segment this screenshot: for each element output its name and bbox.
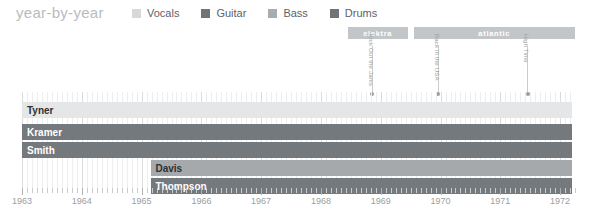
- axis-tick-minor: [520, 188, 521, 193]
- axis-tick-minor: [306, 188, 307, 193]
- axis-tick-minor: [555, 188, 556, 193]
- axis-tick-minor: [460, 188, 461, 193]
- axis-tick-major: [441, 188, 442, 195]
- album-marker-label: High Time: [523, 34, 529, 63]
- axis-tick-minor: [470, 188, 471, 193]
- axis-tick-minor: [485, 188, 486, 193]
- legend-label-bass: Bass: [283, 7, 307, 19]
- axis-tick-minor: [545, 188, 546, 193]
- guitar-swatch-icon: [201, 9, 210, 18]
- legend-item-bass[interactable]: Bass: [268, 7, 307, 19]
- axis-tick-minor: [122, 188, 123, 193]
- axis-tick-minor: [251, 188, 252, 193]
- axis-tick-minor: [361, 188, 362, 193]
- axis-tick-minor: [256, 188, 257, 193]
- axis-tick-minor: [515, 188, 516, 193]
- axis-tick-minor: [97, 188, 98, 193]
- legend-item-vocals[interactable]: Vocals: [132, 7, 179, 19]
- axis-tick-minor: [291, 188, 292, 193]
- album-marker-label: Back in the USA: [434, 34, 440, 81]
- axis-tick-minor: [570, 188, 571, 193]
- axis-tick-minor: [455, 188, 456, 193]
- axis-tick-minor: [92, 188, 93, 193]
- axis-tick-minor: [550, 188, 551, 193]
- axis-tick-minor: [495, 188, 496, 193]
- axis-year-label: 1969: [371, 196, 391, 206]
- axis-tick-major: [560, 188, 561, 195]
- axis-tick-minor: [216, 188, 217, 193]
- vocals-swatch-icon: [132, 9, 141, 18]
- record-label-bar[interactable]: elektra: [348, 27, 408, 39]
- axis-tick-minor: [465, 188, 466, 193]
- table-row[interactable]: Kramer: [22, 124, 572, 140]
- axis-tick-major: [82, 188, 83, 195]
- axis-tick-minor: [186, 188, 187, 193]
- axis-tick-minor: [316, 188, 317, 193]
- axis-tick-minor: [505, 188, 506, 193]
- member-name-label: Smith: [22, 145, 55, 156]
- axis-tick-minor: [87, 188, 88, 193]
- legend-item-drums[interactable]: Drums: [330, 7, 377, 19]
- axis-tick-minor: [391, 188, 392, 193]
- axis-tick-minor: [172, 188, 173, 193]
- table-row[interactable]: Tyner: [22, 102, 572, 118]
- axis-tick-minor: [127, 188, 128, 193]
- axis-tick-minor: [236, 188, 237, 193]
- axis-tick-minor: [67, 188, 68, 193]
- axis-tick-minor: [401, 188, 402, 193]
- axis-tick-minor: [490, 188, 491, 193]
- legend: Vocals Guitar Bass Drums: [132, 6, 377, 20]
- axis-tick-minor: [112, 188, 113, 193]
- axis-tick-minor: [311, 188, 312, 193]
- axis-year-label: 1968: [311, 196, 331, 206]
- axis-tick-minor: [411, 188, 412, 193]
- axis-tick-minor: [162, 188, 163, 193]
- member-name-label: Kramer: [22, 127, 62, 138]
- axis-tick-minor: [231, 188, 232, 193]
- axis-tick-minor: [37, 188, 38, 193]
- axis-tick-minor: [132, 188, 133, 193]
- drums-swatch-icon: [330, 9, 339, 18]
- axis-tick-minor: [152, 188, 153, 193]
- x-axis: 1963196419651966196719681969197019711972: [22, 188, 575, 212]
- axis-tick-major: [201, 188, 202, 195]
- axis-tick-minor: [62, 188, 63, 193]
- axis-year-label: 1964: [72, 196, 92, 206]
- axis-tick-minor: [451, 188, 452, 193]
- axis-tick-major: [381, 188, 382, 195]
- axis-tick-minor: [27, 188, 28, 193]
- axis-tick-minor: [341, 188, 342, 193]
- member-name-label: Davis: [151, 163, 183, 174]
- axis-tick-minor: [446, 188, 447, 193]
- axis-tick-minor: [241, 188, 242, 193]
- axis-tick-minor: [52, 188, 53, 193]
- table-row[interactable]: Smith: [22, 142, 572, 158]
- axis-tick-minor: [191, 188, 192, 193]
- axis-tick-minor: [137, 188, 138, 193]
- axis-tick-minor: [266, 188, 267, 193]
- axis-tick-minor: [47, 188, 48, 193]
- axis-tick-major: [142, 188, 143, 195]
- axis-tick-minor: [167, 188, 168, 193]
- bass-swatch-icon: [268, 9, 277, 18]
- axis-year-label: 1963: [12, 196, 32, 206]
- legend-label-drums: Drums: [345, 7, 377, 19]
- axis-tick-minor: [540, 188, 541, 193]
- axis-tick-major: [22, 188, 23, 195]
- axis-tick-minor: [72, 188, 73, 193]
- page-title: year-by-year: [16, 4, 104, 21]
- axis-tick-minor: [396, 188, 397, 193]
- album-marker-label: Kick Out the Jams: [368, 34, 374, 86]
- legend-item-guitar[interactable]: Guitar: [201, 7, 246, 19]
- axis-tick-minor: [211, 188, 212, 193]
- axis-tick-minor: [226, 188, 227, 193]
- table-row[interactable]: Davis: [151, 160, 573, 176]
- axis-tick-major: [321, 188, 322, 195]
- axis-tick-minor: [431, 188, 432, 193]
- axis-tick-minor: [176, 188, 177, 193]
- axis-tick-minor: [147, 188, 148, 193]
- axis-tick-minor: [271, 188, 272, 193]
- axis-year-label: 1967: [251, 196, 271, 206]
- axis-year-label: 1965: [132, 196, 152, 206]
- axis-tick-minor: [107, 188, 108, 193]
